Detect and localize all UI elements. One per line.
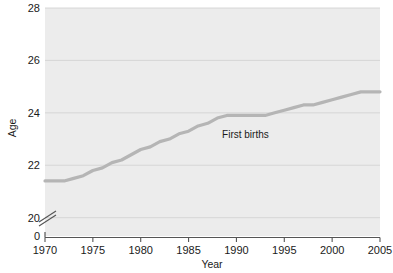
y-axis-tick-label: 24 [28, 107, 40, 119]
y-axis-title: Age [6, 119, 18, 138]
x-axis-tick-label: 2005 [368, 244, 392, 256]
y-axis-tick-label: 20 [28, 212, 40, 224]
x-axis-tick-label: 1970 [33, 244, 57, 256]
x-axis-tick-labels: 19701975198019851990199520002005 [33, 238, 392, 257]
x-axis-tick-label: 1975 [81, 244, 105, 256]
y-axis-tick-label: 22 [28, 159, 40, 171]
y-axis-tick-labels: 2022242628 [28, 2, 40, 224]
y-axis-tick-label: 28 [28, 2, 40, 14]
x-axis-tick-label: 1980 [128, 244, 152, 256]
series-annotation-first-births: First births [222, 129, 269, 140]
x-axis-tick-label: 2000 [320, 244, 344, 256]
line-chart: 2022242628 0 197019751980198519901995200… [0, 0, 393, 273]
y-axis-zero-label: 0 [34, 230, 40, 242]
x-axis-tick-label: 1985 [176, 244, 200, 256]
x-axis-tick-label: 1995 [272, 244, 296, 256]
x-axis-tick-label: 1990 [224, 244, 248, 256]
chart-container: 2022242628 0 197019751980198519901995200… [0, 0, 393, 273]
x-axis-title: Year [201, 258, 223, 270]
y-axis-tick-label: 26 [28, 54, 40, 66]
